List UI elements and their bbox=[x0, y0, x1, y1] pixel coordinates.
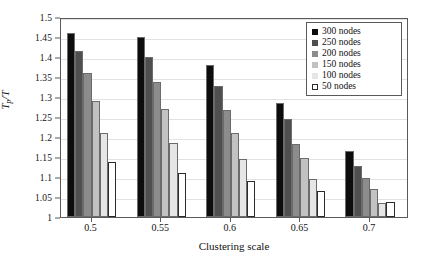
chart-legend: 300 nodes250 nodes200 nodes150 nodes100 … bbox=[306, 22, 402, 96]
bar[interactable] bbox=[178, 173, 186, 217]
y-axis-tick-label: 1.2 bbox=[40, 133, 52, 143]
y-axis-tick-label: 1.35 bbox=[35, 73, 52, 83]
bar[interactable] bbox=[292, 144, 300, 217]
legend-item[interactable]: 50 nodes bbox=[311, 81, 397, 92]
bar-cap bbox=[207, 66, 213, 68]
legend-item[interactable]: 250 nodes bbox=[311, 37, 397, 48]
bar-group bbox=[67, 19, 116, 217]
y-axis-tick-label: 1.15 bbox=[35, 153, 52, 163]
bar[interactable] bbox=[169, 143, 177, 217]
legend-label: 50 nodes bbox=[322, 81, 356, 92]
bar-cap bbox=[310, 180, 316, 182]
bar-cap bbox=[101, 134, 107, 136]
bar-group bbox=[137, 19, 186, 217]
legend-swatch bbox=[312, 40, 318, 46]
bar-cap bbox=[154, 83, 160, 85]
x-axis-tick-label: 0.55 bbox=[151, 222, 169, 233]
legend-item[interactable]: 100 nodes bbox=[311, 70, 397, 81]
legend-label: 300 nodes bbox=[322, 26, 361, 37]
y-axis-tick-label: 1 bbox=[47, 213, 52, 223]
bar-cap bbox=[355, 167, 361, 169]
y-axis-title: Tp/T bbox=[0, 90, 13, 109]
bar[interactable] bbox=[83, 73, 91, 217]
legend-label: 100 nodes bbox=[322, 70, 361, 81]
bar[interactable] bbox=[223, 110, 231, 217]
x-axis-title: Clustering scale bbox=[199, 240, 270, 252]
bar[interactable] bbox=[317, 191, 325, 217]
bar-cap bbox=[232, 134, 238, 136]
bar-cap bbox=[93, 102, 99, 104]
bar-cap bbox=[162, 110, 168, 112]
bar-cap bbox=[346, 152, 352, 154]
legend-swatch bbox=[312, 84, 318, 90]
bar[interactable] bbox=[153, 82, 161, 217]
bar[interactable] bbox=[100, 133, 108, 217]
bar-cap bbox=[215, 87, 221, 89]
bar[interactable] bbox=[370, 189, 378, 217]
bar-cap bbox=[363, 179, 369, 181]
y-axis-tick-label: 1.1 bbox=[40, 173, 52, 183]
bar-cap bbox=[371, 190, 377, 192]
legend-swatch bbox=[312, 62, 318, 68]
bar[interactable] bbox=[300, 158, 308, 217]
bar-group bbox=[206, 19, 255, 217]
legend-swatch bbox=[312, 73, 318, 79]
bar-cap bbox=[387, 203, 393, 205]
bar-cap bbox=[170, 144, 176, 146]
bar[interactable] bbox=[276, 103, 284, 217]
bar-cap bbox=[224, 111, 230, 113]
bar-cap bbox=[293, 145, 299, 147]
y-axis-tick-label: 1.3 bbox=[40, 93, 52, 103]
y-axis-tick-label: 1.4 bbox=[40, 53, 52, 63]
bar[interactable] bbox=[75, 51, 83, 217]
bar-cap bbox=[318, 192, 324, 194]
x-axis-tick-label: 0.65 bbox=[291, 222, 309, 233]
bar[interactable] bbox=[309, 179, 317, 217]
legend-item[interactable]: 150 nodes bbox=[311, 59, 397, 70]
bar[interactable] bbox=[239, 159, 247, 217]
bar-cap bbox=[301, 159, 307, 161]
bar-cap bbox=[138, 38, 144, 40]
bar-cap bbox=[285, 120, 291, 122]
bar-cap bbox=[146, 58, 152, 60]
bar[interactable] bbox=[362, 178, 370, 217]
bar[interactable] bbox=[92, 101, 100, 217]
y-axis-title-tail: /T bbox=[0, 90, 11, 99]
bar[interactable] bbox=[137, 37, 145, 217]
bar[interactable] bbox=[108, 162, 116, 217]
bar[interactable] bbox=[206, 65, 214, 217]
bar[interactable] bbox=[247, 181, 255, 217]
bar-cap bbox=[248, 182, 254, 184]
x-axis-tick-label: 0.6 bbox=[224, 222, 237, 233]
bar[interactable] bbox=[145, 57, 153, 217]
y-axis-tick-label: 1.25 bbox=[35, 113, 52, 123]
bar-cap bbox=[76, 52, 82, 54]
legend-swatch bbox=[312, 51, 318, 57]
legend-item[interactable]: 300 nodes bbox=[311, 26, 397, 37]
x-axis-tick-label: 0.5 bbox=[84, 222, 97, 233]
bar[interactable] bbox=[67, 33, 75, 217]
y-axis-title-sub: p bbox=[4, 100, 13, 104]
legend-item[interactable]: 200 nodes bbox=[311, 48, 397, 59]
bar[interactable] bbox=[231, 133, 239, 217]
bar[interactable] bbox=[386, 202, 394, 217]
bar-cap bbox=[179, 174, 185, 176]
bar[interactable] bbox=[214, 86, 222, 217]
bar[interactable] bbox=[161, 109, 169, 217]
bar[interactable] bbox=[378, 203, 386, 217]
bar[interactable] bbox=[345, 151, 353, 217]
bar[interactable] bbox=[354, 166, 362, 217]
legend-label: 250 nodes bbox=[322, 37, 361, 48]
bar[interactable] bbox=[284, 119, 292, 217]
bar-cap bbox=[84, 74, 90, 76]
bar-cap bbox=[68, 34, 74, 36]
legend-label: 150 nodes bbox=[322, 59, 361, 70]
y-axis-tick-label: 1.05 bbox=[35, 193, 52, 203]
legend-swatch bbox=[312, 29, 318, 35]
y-axis-tick-label: 1.45 bbox=[35, 33, 52, 43]
bar-cap bbox=[109, 163, 115, 165]
y-axis-title-main: T bbox=[0, 103, 11, 109]
legend-label: 200 nodes bbox=[322, 48, 361, 59]
bar-cap bbox=[240, 160, 246, 162]
bar-cap bbox=[379, 204, 385, 206]
